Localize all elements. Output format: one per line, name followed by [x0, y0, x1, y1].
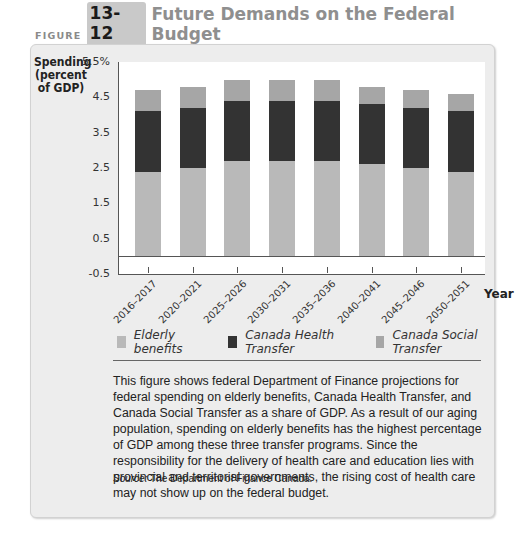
bar-2045–2046 — [403, 62, 429, 274]
bar-segment-canada-social-transfer — [314, 80, 340, 101]
x-tick — [327, 267, 328, 273]
bar-segment-canada-health-transfer — [403, 108, 429, 168]
bar-segment-canada-health-transfer — [135, 111, 161, 171]
bar-segment-canada-health-transfer — [224, 101, 250, 161]
x-tick — [416, 267, 417, 273]
bar-segment-elderly-benefits — [135, 172, 161, 257]
x-tick — [237, 267, 238, 273]
bar-segment-canada-social-transfer — [269, 80, 295, 101]
bar-2050–2051 — [448, 62, 474, 274]
legend-item-elderly: Elderly benefits — [117, 328, 202, 356]
bar-segment-canada-health-transfer — [269, 101, 295, 161]
x-tick — [193, 267, 194, 273]
legend-item-social: Canada Social Transfer — [376, 328, 494, 356]
legend-swatch-elderly — [117, 336, 126, 348]
bar-segment-canada-social-transfer — [180, 87, 206, 108]
bar-segment-canada-health-transfer — [180, 108, 206, 168]
x-tick — [372, 267, 373, 273]
bar-2016–2017 — [135, 62, 161, 274]
legend-label: Elderly benefits — [134, 328, 203, 356]
bar-segment-canada-social-transfer — [224, 80, 250, 101]
bar-segment-elderly-benefits — [448, 172, 474, 257]
y-tick-label: 1.5 — [70, 196, 110, 209]
bar-segment-elderly-benefits — [359, 164, 385, 256]
y-tick-label: 2.5 — [70, 161, 110, 174]
bar-segment-canada-social-transfer — [448, 94, 474, 112]
figure-header: FIGURE 13-12 Future Demands on the Feder… — [35, 22, 520, 44]
x-axis-label: Year — [484, 287, 514, 301]
bar-2030–2031 — [269, 62, 295, 274]
x-tick — [461, 267, 462, 273]
x-tick — [282, 267, 283, 273]
plot-area — [118, 62, 485, 275]
legend-label: Canada Social Transfer — [392, 328, 494, 356]
y-tick-label: 3.5 — [70, 126, 110, 139]
bar-segment-elderly-benefits — [180, 168, 206, 256]
bar-2020–2021 — [180, 62, 206, 274]
bar-2035–2036 — [314, 62, 340, 274]
legend: Elderly benefits Canada Health Transfer … — [117, 328, 520, 356]
bar-segment-canada-social-transfer — [135, 90, 161, 111]
y-tick-label: 0.5 — [70, 232, 110, 245]
figure-number: 13-12 — [87, 2, 146, 44]
figure-title: Future Demands on the Federal Budget — [152, 4, 520, 44]
divider — [113, 360, 481, 361]
bar-segment-canada-social-transfer — [403, 90, 429, 108]
bar-2025–2026 — [224, 62, 250, 274]
bar-segment-elderly-benefits — [224, 161, 250, 256]
bar-2040–2041 — [359, 62, 385, 274]
x-tick — [148, 267, 149, 273]
legend-label: Canada Health Transfer — [245, 328, 349, 356]
source-note: Source: The Department of Finance Canada… — [113, 473, 312, 484]
figure-word: FIGURE — [35, 30, 82, 44]
bar-segment-elderly-benefits — [314, 161, 340, 256]
bar-segment-canada-social-transfer — [359, 87, 385, 105]
bar-segment-elderly-benefits — [403, 168, 429, 256]
legend-item-health: Canada Health Transfer — [228, 328, 349, 356]
bar-segment-canada-health-transfer — [448, 111, 474, 171]
source-text: The Department of Finance Canada. — [147, 473, 312, 484]
bar-segment-canada-health-transfer — [359, 104, 385, 164]
y-tick-label: 4.5 — [70, 90, 110, 103]
bar-segment-elderly-benefits — [269, 161, 295, 256]
legend-swatch-health — [228, 336, 237, 348]
legend-swatch-social — [376, 336, 385, 348]
y-tick-label: 5.5% — [70, 55, 110, 68]
source-prefix: Source: — [113, 473, 147, 484]
bar-segment-canada-health-transfer — [314, 101, 340, 161]
y-tick-label: -0.5 — [70, 267, 110, 280]
zero-line — [119, 256, 485, 257]
